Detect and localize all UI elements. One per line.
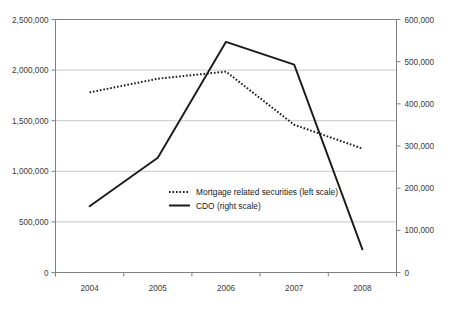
right-axis-tick-label: 100,000 [405, 226, 435, 235]
left-axis-tick-label: 1,500,000 [12, 117, 49, 126]
left-axis-tick-label: 2,000,000 [12, 66, 49, 75]
right-axis-tick-label: 0 [405, 269, 410, 278]
right-axis-tick-label: 500,000 [405, 58, 435, 67]
x-axis-tick-label: 2005 [149, 284, 168, 293]
line-chart: 0500,0001,000,0001,500,0002,000,0002,500… [0, 0, 452, 312]
legend-label-1: Mortgage related securities (left scale) [196, 187, 338, 197]
right-axis-tick-label: 300,000 [405, 142, 435, 151]
left-axis-tick-label: 2,500,000 [12, 16, 49, 25]
legend-label-2: CDO (right scale) [196, 201, 261, 211]
right-axis-tick-label: 200,000 [405, 184, 435, 193]
chart-background [0, 0, 452, 312]
left-axis-tick-label: 1,000,000 [12, 167, 49, 176]
x-axis-tick-label: 2007 [285, 284, 304, 293]
right-axis-tick-label: 400,000 [405, 100, 435, 109]
x-axis-tick-label: 2008 [353, 284, 372, 293]
right-axis-tick-label: 600,000 [405, 16, 435, 25]
left-axis-tick-label: 500,000 [19, 218, 49, 227]
x-axis-tick-label: 2006 [217, 284, 236, 293]
x-axis-tick-label: 2004 [80, 284, 99, 293]
left-axis-tick-label: 0 [44, 269, 49, 278]
chart-container: 0500,0001,000,0001,500,0002,000,0002,500… [0, 0, 452, 312]
